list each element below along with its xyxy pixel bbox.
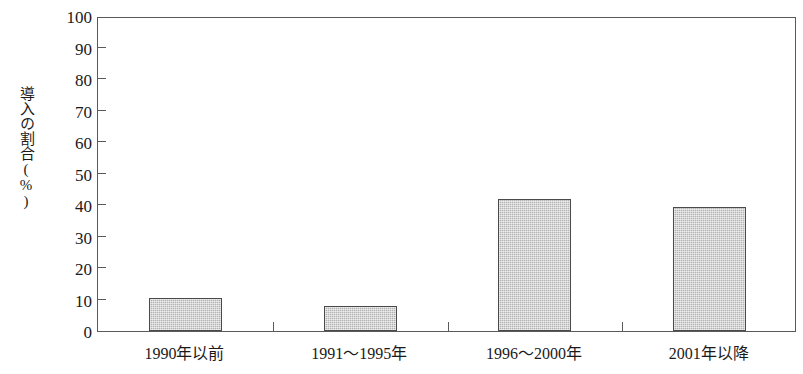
- y-tick-mark: [98, 236, 106, 237]
- y-tick-label: 60: [40, 135, 92, 152]
- y-tick-label: 10: [40, 293, 92, 310]
- y-tick-label: 20: [40, 261, 92, 278]
- y-tick-label: 40: [40, 198, 92, 215]
- y-axis-tick-labels: 0102030405060708090100: [40, 0, 92, 374]
- x-tick-mark: [448, 322, 449, 331]
- bar: [149, 298, 222, 331]
- y-tick-label: 100: [40, 9, 92, 26]
- x-tick-mark: [273, 322, 274, 331]
- x-tick-label: 1991〜1995年: [272, 344, 447, 364]
- y-tick-mark: [98, 299, 106, 300]
- y-tick-label: 30: [40, 230, 92, 247]
- y-axis-title: 導入の割合(%): [8, 86, 34, 209]
- x-tick-label: 1990年以前: [97, 344, 272, 364]
- y-tick-label: 90: [40, 41, 92, 58]
- y-tick-mark: [98, 78, 106, 79]
- y-tick-mark: [98, 267, 106, 268]
- y-tick-mark: [98, 173, 106, 174]
- bar: [498, 199, 571, 331]
- x-tick-mark: [622, 322, 623, 331]
- plot-area: [97, 17, 796, 332]
- bar: [324, 306, 397, 331]
- bar: [673, 207, 746, 331]
- y-tick-mark: [98, 204, 106, 205]
- y-tick-mark: [98, 47, 106, 48]
- y-tick-label: 80: [40, 72, 92, 89]
- x-axis-tick-labels: 1990年以前1991〜1995年1996〜2000年2001年以降: [97, 344, 796, 368]
- bar-chart: 導入の割合(%) 0102030405060708090100 1990年以前1…: [0, 0, 803, 374]
- y-tick-label: 70: [40, 104, 92, 121]
- x-tick-label: 1996〜2000年: [447, 344, 622, 364]
- y-tick-label: 0: [40, 324, 92, 341]
- y-tick-mark: [98, 110, 106, 111]
- x-tick-label: 2001年以降: [621, 344, 796, 364]
- y-tick-mark: [98, 141, 106, 142]
- y-tick-label: 50: [40, 167, 92, 184]
